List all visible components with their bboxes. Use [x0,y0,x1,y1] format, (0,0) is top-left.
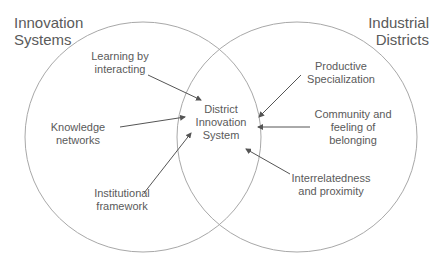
arrow-knowledge [120,117,185,127]
factor-knowledge: Knowledge networks [38,121,118,147]
factor-community: Community and feeling of belonging [308,108,398,147]
arrow-institutional [144,133,191,193]
factor-productive: Productive Specialization [296,60,386,86]
factor-learning: Learning by interacting [80,50,160,76]
arrow-productive [259,75,301,117]
innovation-systems-title: Innovation Systems [14,14,83,48]
industrial-districts-title: Industrial Districts [368,14,429,48]
factor-institutional: Institutional framework [82,187,162,213]
factor-interrelatedness: Interrelatedness and proximity [283,172,379,198]
arrow-interrelatedness [246,149,290,174]
center-label: District Innovation System [186,103,256,142]
